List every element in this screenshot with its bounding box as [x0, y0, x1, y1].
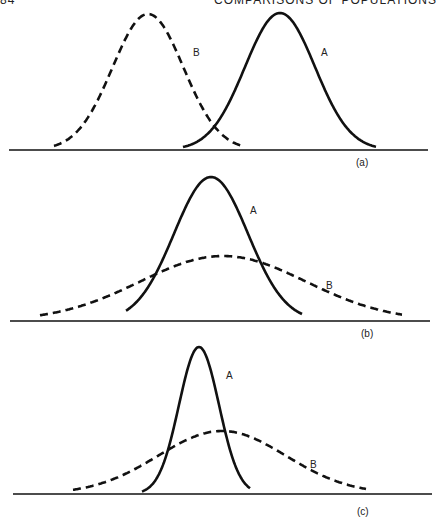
- curve-b: [73, 431, 366, 490]
- figure-comparisons-of-distributions: 84 COMPARISONS OF POPULATIONS AB(a) AB(b…: [0, 0, 441, 524]
- curve-label-a: A: [250, 205, 257, 216]
- page-number: 84: [0, 0, 15, 7]
- curve-label-a: A: [321, 47, 328, 58]
- curve-label-b: B: [193, 47, 200, 58]
- distribution-plots: AB(a) AB(b) AB(c): [0, 0, 441, 524]
- curve-b: [54, 14, 245, 147]
- curve-label-b: B: [326, 280, 333, 291]
- panel-label: (a): [356, 157, 368, 168]
- curve-a: [126, 177, 302, 314]
- panel-label: (b): [361, 328, 373, 339]
- curve-a: [183, 13, 376, 147]
- running-title: COMPARISONS OF POPULATIONS: [214, 0, 437, 7]
- curve-a: [142, 347, 250, 492]
- panel-b: AB(b): [10, 177, 430, 339]
- curve-label-a: A: [226, 370, 233, 381]
- curve-label-b: B: [310, 459, 317, 470]
- panel-a: AB(a): [9, 13, 428, 168]
- panel-label: (c): [357, 506, 369, 517]
- curve-b: [40, 256, 402, 315]
- panel-c: AB(c): [13, 347, 432, 517]
